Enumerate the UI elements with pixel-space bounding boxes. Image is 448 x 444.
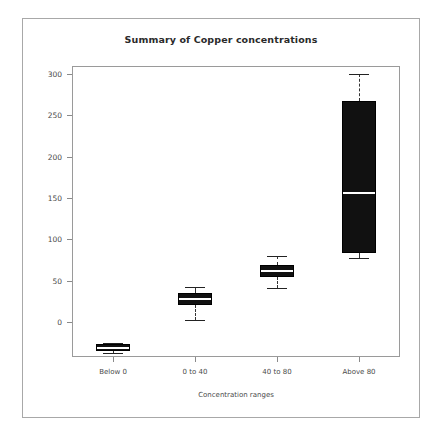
whisker-upper bbox=[359, 74, 360, 101]
y-tick-mark bbox=[67, 115, 72, 116]
y-tick-label: 150 bbox=[26, 194, 62, 203]
y-tick-mark bbox=[67, 74, 72, 75]
y-tick-label: 200 bbox=[26, 152, 62, 161]
y-tick-mark bbox=[67, 239, 72, 240]
y-tick-mark bbox=[67, 157, 72, 158]
y-tick-label: 50 bbox=[26, 276, 62, 285]
cap-lower bbox=[185, 320, 205, 321]
median-line bbox=[261, 270, 293, 272]
y-tick-mark bbox=[67, 322, 72, 323]
cap-upper bbox=[267, 256, 287, 257]
y-tick-mark bbox=[67, 198, 72, 199]
cap-lower bbox=[349, 258, 369, 259]
y-tick-label: 250 bbox=[26, 111, 62, 120]
x-tick-label: 40 to 80 bbox=[262, 368, 291, 376]
x-tick-label: Above 80 bbox=[342, 368, 375, 376]
x-tick-mark bbox=[113, 357, 114, 362]
whisker-lower bbox=[195, 305, 196, 320]
y-tick-label: 300 bbox=[26, 70, 62, 79]
cap-upper bbox=[349, 74, 369, 75]
x-tick-mark bbox=[359, 357, 360, 362]
x-tick-label: Below 0 bbox=[99, 368, 127, 376]
y-tick-mark bbox=[67, 281, 72, 282]
median-line bbox=[343, 192, 375, 194]
y-tick-label: 0 bbox=[26, 318, 62, 327]
cap-lower bbox=[103, 353, 123, 354]
median-line bbox=[97, 347, 129, 349]
whisker-upper bbox=[277, 256, 278, 265]
x-tick-label: 0 to 40 bbox=[183, 368, 208, 376]
cap-lower bbox=[267, 288, 287, 289]
x-axis-title: Concentration ranges bbox=[72, 391, 400, 399]
x-tick-mark bbox=[277, 357, 278, 362]
x-tick-mark bbox=[195, 357, 196, 362]
y-tick-label: 100 bbox=[26, 235, 62, 244]
median-line bbox=[179, 298, 211, 300]
whisker-lower bbox=[277, 277, 278, 289]
box-iqr bbox=[342, 101, 376, 253]
cap-upper bbox=[185, 287, 205, 288]
chart-title: Summary of Copper concentrations bbox=[22, 34, 420, 45]
